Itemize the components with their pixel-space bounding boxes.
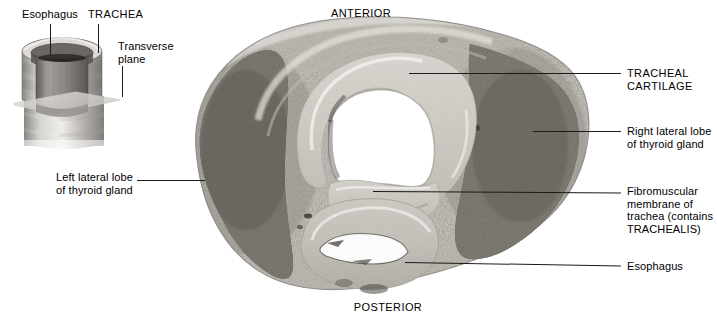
callout-leader-left-lateral-lobe — [137, 180, 205, 181]
orientation-label-anterior: ANTERIOR — [331, 7, 391, 20]
inset-leader-trachea — [98, 24, 99, 53]
callout-label-left-lateral-lobe: Left lateral lobe of thyroid gland — [56, 171, 133, 196]
figure-root: Esophagus TRACHEA Transverse plane ANTER… — [0, 0, 717, 322]
inset-leader-transverse-plane — [122, 66, 123, 97]
inset-label-trachea: TRACHEA — [88, 8, 143, 21]
callout-label-right-lateral-lobe: Right lateral lobe of thyroid gland — [627, 125, 711, 150]
callout-label-esophagus: Esophagus — [627, 260, 683, 273]
inset-label-transverse-plane: Transverse plane — [118, 40, 174, 65]
inset-leader-esophagus — [50, 24, 51, 55]
callout-leader-right-lateral-lobe — [533, 131, 621, 132]
callout-leader-tracheal-cartilage — [409, 73, 621, 74]
orientation-label-posterior: POSTERIOR — [354, 301, 422, 314]
callout-label-tracheal-cartilage: TRACHEAL CARTILAGE — [627, 67, 693, 92]
inset-label-esophagus: Esophagus — [22, 8, 78, 21]
trachea-orientation-inset — [0, 0, 717, 322]
inset-drawing — [10, 38, 120, 159]
callout-label-fibromuscular-membrane: Fibromuscular membrane of trachea (conta… — [627, 185, 713, 235]
